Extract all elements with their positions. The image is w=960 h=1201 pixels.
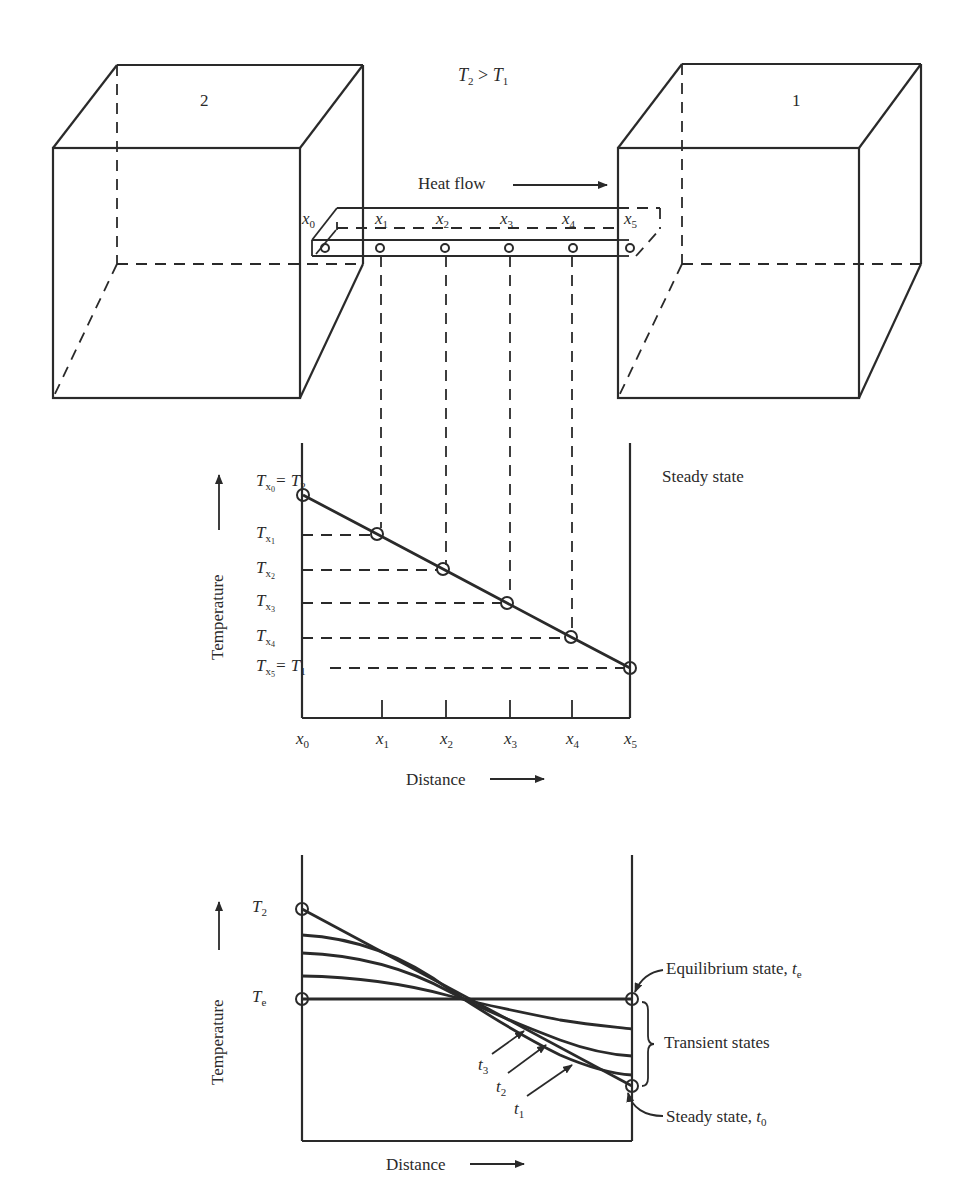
bar-label-x4: x4 bbox=[562, 210, 575, 230]
time-label-t1: t1 bbox=[514, 1100, 524, 1120]
bar-label-x1: x1 bbox=[375, 210, 388, 230]
condition-lhs-sub: 2 bbox=[468, 75, 474, 87]
chart1-ylabel: Temperature bbox=[208, 574, 228, 660]
equilibrium-state-label: Equilibrium state, te bbox=[666, 960, 802, 980]
transient-curve-t1 bbox=[302, 935, 632, 1075]
condition-operator: > bbox=[478, 65, 488, 85]
chart1-xtick-5: x5 bbox=[624, 730, 637, 750]
chart1-ytick-5: Tx5= T1 bbox=[256, 657, 306, 679]
transient-brace bbox=[642, 1002, 654, 1086]
condition-rhs-sub: 1 bbox=[503, 75, 509, 87]
time-label-t3: t3 bbox=[478, 1056, 488, 1076]
chart2-ylabel: Temperature bbox=[208, 999, 228, 1085]
bar-label-x3: x3 bbox=[500, 210, 513, 230]
chart2-xlabel: Distance bbox=[386, 1156, 445, 1173]
bar-label-x2: x2 bbox=[436, 210, 449, 230]
chart1-ytick-3: Tx3 bbox=[256, 592, 275, 614]
bar-label-x0: x0 bbox=[302, 210, 315, 230]
chart1-ytick-1: Tx1 bbox=[256, 524, 275, 546]
chart1-ytick-2: Tx2 bbox=[256, 559, 275, 581]
condition-rhs: T bbox=[493, 65, 503, 85]
chart1-xtick-0: x0 bbox=[296, 730, 309, 750]
chart2-te-label: Te bbox=[252, 988, 266, 1008]
chart1-ytick-0: Tx0= T2 bbox=[256, 472, 306, 494]
reservoir-left-cube bbox=[53, 65, 363, 398]
transient-states-label: Transient states bbox=[664, 1034, 770, 1051]
steady-state-line bbox=[302, 909, 632, 1086]
chart1-xtick-2: x2 bbox=[440, 730, 453, 750]
transient-curve-t2 bbox=[302, 953, 632, 1056]
condition-lhs: T bbox=[458, 65, 468, 85]
projection-lines bbox=[381, 256, 572, 632]
heat-flow-label: Heat flow bbox=[418, 175, 486, 192]
chart1-ytick-4: Tx4 bbox=[256, 627, 275, 649]
conducting-bar bbox=[312, 208, 660, 256]
steady-state-title: Steady state bbox=[662, 468, 744, 485]
steady-state-t0-label: Steady state, t0 bbox=[666, 1108, 766, 1128]
reservoir-right-label: 1 bbox=[792, 92, 801, 109]
chart1-xtick-1: x1 bbox=[376, 730, 389, 750]
temperature-condition: T2 > T1 bbox=[458, 66, 508, 87]
time-label-t2: t2 bbox=[496, 1078, 506, 1098]
reservoir-left-label: 2 bbox=[200, 92, 209, 109]
chart1-xtick-3: x3 bbox=[504, 730, 517, 750]
reservoir-right-cube bbox=[618, 64, 921, 398]
steady-state-profile-line bbox=[303, 495, 630, 668]
transient-states-chart bbox=[219, 855, 663, 1164]
bar-label-x5: x5 bbox=[624, 210, 637, 230]
chart2-t2-label: T2 bbox=[252, 898, 267, 918]
chart1-xtick-4: x4 bbox=[566, 730, 579, 750]
chart1-xlabel: Distance bbox=[406, 771, 465, 788]
